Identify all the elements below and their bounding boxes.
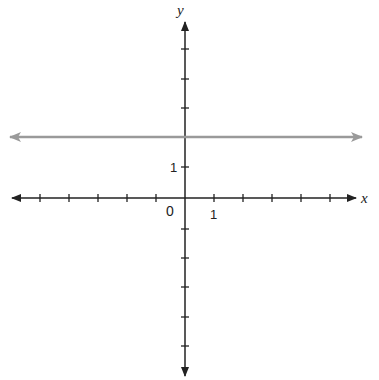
origin-label: 0 <box>166 203 174 219</box>
x-axis <box>12 194 356 202</box>
y-axis-label: y <box>175 2 184 18</box>
coordinate-plane: y x 0 1 1 <box>0 0 379 380</box>
y-tick-label-1: 1 <box>170 160 177 175</box>
y-axis <box>181 22 189 376</box>
x-tick-label-1: 1 <box>210 207 217 222</box>
x-axis-label: x <box>360 190 368 206</box>
